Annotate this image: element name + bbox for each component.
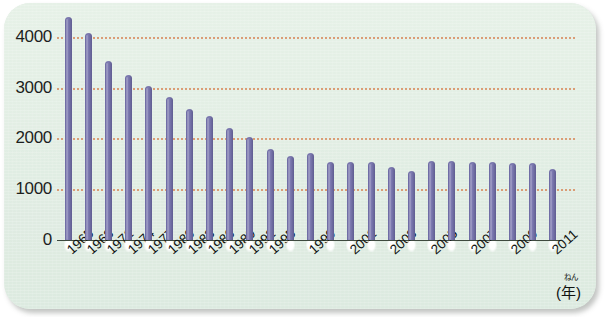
x-axis-unit-text: (年) bbox=[556, 284, 581, 301]
bar-1997[interactable] bbox=[287, 156, 294, 240]
x-axis-tick-2010 bbox=[528, 241, 537, 252]
bar-2004[interactable] bbox=[408, 171, 415, 240]
bar-2002[interactable] bbox=[368, 162, 375, 240]
gridline-2000 bbox=[57, 138, 575, 140]
bar-1977[interactable] bbox=[145, 86, 152, 240]
bar-1971[interactable] bbox=[105, 61, 112, 240]
x-axis-tick-1997 bbox=[286, 241, 295, 252]
bar-1983[interactable] bbox=[186, 109, 193, 240]
bar-2011[interactable] bbox=[549, 169, 556, 240]
x-axis-tick-2002 bbox=[367, 241, 376, 252]
x-axis-unit-label: ねん (年) bbox=[556, 281, 581, 302]
y-axis-tick-label-1000: 1000 bbox=[0, 180, 52, 197]
bar-2007[interactable] bbox=[469, 162, 476, 240]
x-axis-tick-2000 bbox=[326, 241, 335, 252]
x-axis-tick-2004 bbox=[407, 241, 416, 252]
x-axis-tick-2008 bbox=[488, 241, 497, 252]
chart-screenshot: 0100020003000400019651968197119741977198… bbox=[0, 0, 605, 317]
bar-1989[interactable] bbox=[226, 128, 233, 240]
x-axis-tick-2006 bbox=[447, 241, 456, 252]
bar-1968[interactable] bbox=[85, 33, 92, 240]
bar-1995[interactable] bbox=[267, 149, 274, 240]
bar-2003[interactable] bbox=[388, 167, 395, 240]
bar-2001[interactable] bbox=[347, 162, 354, 240]
bar-2010[interactable] bbox=[529, 163, 536, 240]
bar-1986[interactable] bbox=[206, 116, 213, 240]
bar-1965[interactable] bbox=[65, 17, 72, 240]
bar-2000[interactable] bbox=[327, 162, 334, 240]
gridline-4000 bbox=[57, 37, 575, 39]
bar-1992[interactable] bbox=[246, 137, 253, 240]
bar-1974[interactable] bbox=[125, 75, 132, 240]
y-axis-tick-label-4000: 4000 bbox=[0, 28, 52, 45]
bar-1980[interactable] bbox=[166, 97, 173, 240]
gridline-3000 bbox=[57, 88, 575, 90]
bar-1999[interactable] bbox=[307, 153, 314, 240]
y-axis-tick-label-3000: 3000 bbox=[0, 79, 52, 96]
bar-2008[interactable] bbox=[489, 162, 496, 240]
bar-chart-plot-area: 0100020003000400019651968197119741977198… bbox=[0, 0, 605, 317]
bar-2006[interactable] bbox=[448, 161, 455, 240]
bar-2009[interactable] bbox=[509, 163, 516, 240]
x-axis-unit-ruby: ねん bbox=[564, 271, 578, 282]
y-axis-tick-label-0: 0 bbox=[0, 231, 52, 248]
gridline-1000 bbox=[57, 189, 575, 191]
bar-2005[interactable] bbox=[428, 161, 435, 240]
y-axis-tick-label-2000: 2000 bbox=[0, 129, 52, 146]
